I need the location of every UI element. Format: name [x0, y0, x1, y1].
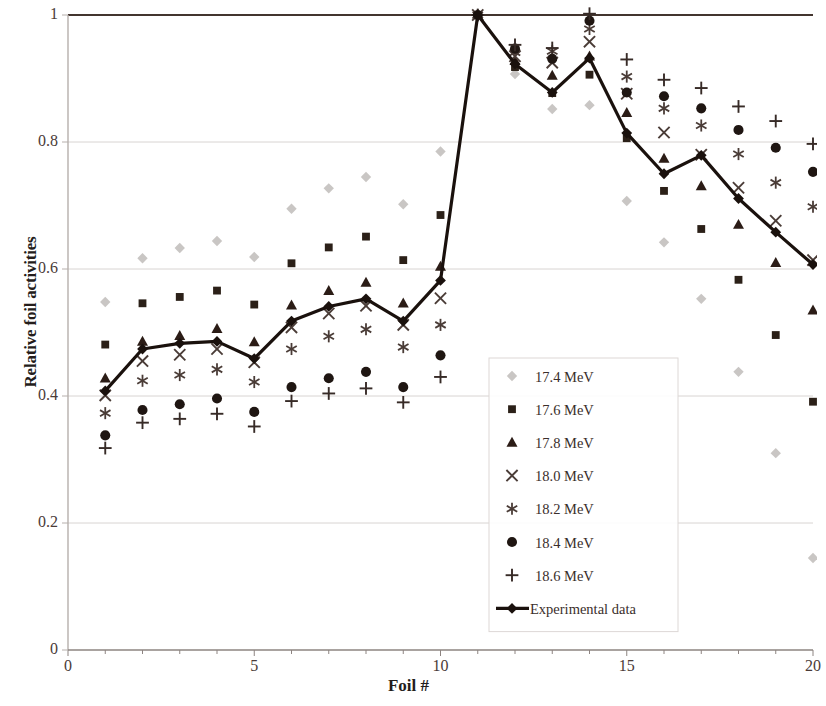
marker-diamond — [435, 146, 445, 156]
marker-diamond — [659, 237, 669, 247]
marker-asterisk — [771, 177, 781, 189]
marker-diamond — [324, 183, 334, 193]
marker-triangle — [360, 277, 371, 287]
marker-plus — [695, 82, 708, 95]
marker-circle — [696, 103, 706, 113]
marker-plus — [173, 412, 186, 425]
marker-circle — [622, 87, 632, 97]
marker-plus — [99, 442, 112, 455]
marker-cross — [435, 293, 446, 304]
marker-diamond — [137, 253, 147, 263]
marker-cross — [658, 127, 669, 138]
series-17-4-mev — [100, 10, 817, 563]
marker-asterisk — [435, 319, 445, 331]
marker-triangle — [770, 257, 781, 267]
marker-asterisk — [733, 148, 743, 160]
marker-cross — [584, 36, 595, 47]
marker-square — [213, 287, 221, 295]
marker-circle — [249, 407, 259, 417]
marker-circle — [324, 373, 334, 383]
marker-diamond — [808, 553, 817, 563]
marker-square — [288, 259, 296, 267]
marker-plus — [211, 407, 224, 420]
marker-plus — [658, 73, 671, 86]
marker-asterisk — [212, 363, 222, 375]
marker-circle — [398, 382, 408, 392]
marker-plus — [732, 100, 745, 113]
marker-asterisk — [622, 71, 632, 83]
marker-circle — [733, 125, 743, 135]
marker-plus — [620, 53, 633, 66]
marker-asterisk — [175, 369, 185, 381]
legend-label: Experimental data — [530, 601, 636, 617]
marker-circle — [100, 430, 110, 440]
marker-asterisk — [100, 407, 110, 419]
marker-plus — [136, 416, 149, 429]
marker-triangle — [286, 300, 297, 310]
legend-label: 17.4 MeV — [535, 369, 594, 385]
legend-label: 18.0 MeV — [535, 468, 594, 484]
marker-diamond — [547, 104, 557, 114]
marker-plus — [807, 138, 817, 151]
marker-square — [139, 299, 147, 307]
series-18-2-mev — [100, 9, 817, 419]
marker-circle — [771, 143, 781, 153]
marker-square — [586, 71, 594, 79]
marker-triangle — [323, 285, 334, 295]
marker-square — [176, 293, 184, 301]
legend-label: 18.6 MeV — [535, 568, 594, 584]
series-17-6-mev — [101, 11, 817, 406]
marker-square — [362, 233, 370, 241]
marker-circle — [286, 382, 296, 392]
marker-cross — [174, 349, 185, 360]
series-experimental-data — [100, 10, 817, 397]
marker-square — [660, 187, 668, 195]
marker-plus — [546, 42, 559, 55]
marker-circle — [435, 350, 445, 360]
marker-asterisk — [808, 201, 817, 213]
marker-diamond — [212, 236, 222, 246]
marker-circle — [361, 367, 371, 377]
marker-plus — [434, 371, 447, 384]
marker-plus — [397, 396, 410, 409]
legend-label: 17.6 MeV — [535, 402, 594, 418]
marker-triangle — [621, 107, 632, 117]
marker-diamond — [249, 252, 259, 262]
marker-diamond — [771, 448, 781, 458]
marker-asterisk — [249, 376, 259, 388]
marker-asterisk — [696, 119, 706, 131]
marker-asterisk — [324, 330, 334, 342]
marker-diamond — [175, 243, 185, 253]
marker-plus — [769, 115, 782, 128]
marker-circle — [137, 405, 147, 415]
marker-plus — [360, 382, 373, 395]
marker-triangle — [249, 336, 260, 346]
legend-label: 17.8 MeV — [535, 435, 594, 451]
marker-square — [437, 211, 445, 219]
marker-diamond — [398, 199, 408, 209]
marker-diamond — [733, 367, 743, 377]
marker-triangle — [696, 180, 707, 190]
marker-square — [250, 301, 258, 309]
marker-square — [101, 341, 109, 349]
marker-asterisk — [659, 102, 669, 114]
marker-square — [508, 405, 516, 413]
marker-plus — [248, 420, 261, 433]
marker-diamond — [100, 297, 110, 307]
marker-triangle — [658, 153, 669, 163]
marker-asterisk — [361, 323, 371, 335]
marker-circle — [175, 399, 185, 409]
marker-triangle — [211, 323, 222, 333]
marker-cross — [770, 215, 781, 226]
marker-square — [697, 225, 705, 233]
marker-plus — [322, 387, 335, 400]
marker-triangle — [100, 373, 111, 383]
marker-triangle — [733, 219, 744, 229]
marker-circle — [212, 394, 222, 404]
marker-circle — [507, 537, 517, 547]
marker-asterisk — [286, 343, 296, 355]
marker-square — [772, 331, 780, 339]
marker-asterisk — [398, 341, 408, 353]
